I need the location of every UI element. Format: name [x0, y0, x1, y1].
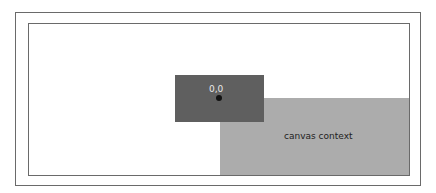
origin-box: 0,0	[175, 75, 264, 122]
canvas-viewport: canvas context 0,0	[28, 23, 410, 176]
origin-point-icon	[216, 95, 222, 101]
canvas-context-label: canvas context	[284, 131, 352, 141]
origin-label: 0,0	[209, 84, 223, 94]
